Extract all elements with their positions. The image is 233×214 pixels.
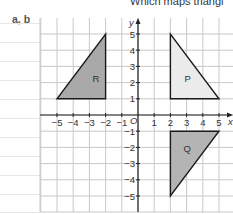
x-axis-label: x	[227, 116, 233, 127]
triangle-label: P	[185, 73, 191, 84]
x-tick-label: −3	[84, 117, 95, 128]
axes: xyO−5−4−3−2−11234554321−1−2−3−4−5	[40, 17, 233, 212]
y-tick-label: 4	[130, 45, 135, 56]
y-tick-label: −4	[124, 174, 135, 185]
y-axis-label: y	[128, 17, 135, 28]
y-axis-arrow-icon	[136, 18, 141, 24]
x-tick-label: 1	[152, 117, 157, 128]
origin-label: O	[130, 115, 138, 126]
y-tick-label: 3	[130, 61, 135, 72]
y-tick-label: −5	[124, 191, 135, 202]
triangle-label: R	[92, 73, 99, 84]
x-tick-label: 5	[216, 117, 221, 128]
y-tick-label: −3	[124, 158, 135, 169]
y-tick-label: 5	[130, 29, 135, 40]
triangle-label: Q	[184, 143, 191, 154]
x-tick-label: 3	[184, 117, 189, 128]
x-tick-label: −2	[100, 117, 111, 128]
y-tick-label: −1	[124, 126, 135, 137]
y-tick-label: 2	[130, 77, 135, 88]
x-tick-label: 2	[168, 117, 173, 128]
y-tick-label: −2	[124, 142, 135, 153]
x-tick-label: −4	[68, 117, 79, 128]
coordinate-grid: RPQxyO−5−4−3−2−11234554321−1−2−3−4−5	[0, 0, 233, 214]
x-tick-label: −5	[52, 117, 63, 128]
y-tick-label: 1	[130, 93, 135, 104]
x-tick-label: 4	[200, 117, 205, 128]
